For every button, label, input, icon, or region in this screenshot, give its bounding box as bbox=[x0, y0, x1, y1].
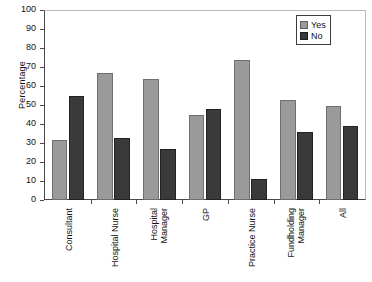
x-axis-label-hospital-nurse: Hospital Nurse bbox=[110, 208, 120, 267]
chart-legend: YesNo bbox=[296, 15, 331, 45]
x-axis-label-line: Fundholding bbox=[286, 208, 296, 258]
bar-no-practice-nurse bbox=[251, 179, 267, 200]
x-tick-mark bbox=[274, 200, 275, 204]
bar-yes-all bbox=[326, 106, 342, 201]
x-axis-label-fundholding-manager: FundholdingManager bbox=[286, 208, 306, 258]
x-axis-label-line: Consultant bbox=[64, 208, 74, 251]
bar-no-hospital-nurse bbox=[114, 138, 130, 200]
y-tick-label: 80 bbox=[26, 42, 36, 53]
x-tick-mark bbox=[136, 200, 137, 204]
x-axis-label-gp: GP bbox=[201, 208, 211, 221]
x-tick-mark bbox=[91, 200, 92, 204]
bar-yes-consultant bbox=[52, 140, 68, 200]
x-axis-label-line: GP bbox=[201, 208, 211, 221]
y-tick-label: 90 bbox=[26, 23, 36, 34]
x-axis-label-practice-nurse: Practice Nurse bbox=[247, 208, 257, 267]
y-tick-mark bbox=[40, 200, 44, 201]
y-tick-label: 10 bbox=[26, 175, 36, 186]
bar-no-gp bbox=[206, 109, 222, 200]
bar-no-all bbox=[343, 126, 359, 200]
bar-yes-hospital-nurse bbox=[97, 73, 113, 200]
bar-yes-fundholding-manager bbox=[280, 100, 296, 200]
legend-item-yes[interactable]: Yes bbox=[300, 19, 326, 30]
y-tick-label: 0 bbox=[31, 194, 36, 205]
x-axis-label-line: Manager bbox=[159, 208, 169, 244]
y-tick-label: 20 bbox=[26, 156, 36, 167]
bar-no-fundholding-manager bbox=[297, 132, 313, 200]
x-axis-label-all: All bbox=[338, 208, 348, 218]
bar-yes-hospital-manager bbox=[143, 79, 159, 200]
bar-chart: Percentage 1009080706050403020100 Consul… bbox=[0, 0, 372, 282]
bar-yes-practice-nurse bbox=[234, 60, 250, 200]
x-axis-label-line: Hospital Nurse bbox=[110, 208, 120, 267]
x-axis-label-line: Practice Nurse bbox=[247, 208, 257, 267]
legend-label: Yes bbox=[311, 20, 326, 30]
x-axis-label-line: All bbox=[338, 208, 348, 218]
bar-no-consultant bbox=[69, 96, 85, 200]
legend-item-no[interactable]: No bbox=[300, 30, 326, 41]
x-axis-label-hospital-manager: HospitalManager bbox=[149, 208, 169, 244]
y-tick-label: 50 bbox=[26, 99, 36, 110]
legend-swatch-yes-icon bbox=[300, 21, 308, 29]
x-axis-label-consultant: Consultant bbox=[64, 208, 74, 251]
x-axis-label-line: Manager bbox=[296, 208, 306, 258]
x-tick-mark bbox=[182, 200, 183, 204]
bar-yes-gp bbox=[189, 115, 205, 200]
legend-label: No bbox=[311, 31, 323, 41]
y-tick-label: 70 bbox=[26, 61, 36, 72]
x-tick-mark bbox=[228, 200, 229, 204]
y-tick-label: 30 bbox=[26, 137, 36, 148]
bar-no-hospital-manager bbox=[160, 149, 176, 200]
y-tick-label: 60 bbox=[26, 80, 36, 91]
x-axis-label-line: Hospital bbox=[149, 208, 159, 244]
x-tick-mark bbox=[319, 200, 320, 204]
y-tick-label: 40 bbox=[26, 118, 36, 129]
legend-swatch-no-icon bbox=[300, 32, 308, 40]
y-tick-label: 100 bbox=[21, 4, 36, 15]
